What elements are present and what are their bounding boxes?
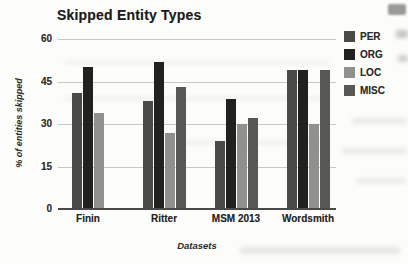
- scan-artifact: [388, 4, 406, 15]
- bar-per-msm-2013: [215, 141, 225, 209]
- bar-misc-wordsmith: [320, 70, 330, 209]
- bar-group-wordsmith: [287, 70, 330, 209]
- legend: PERORGLOCMISC: [344, 31, 385, 96]
- scan-artifact: [352, 118, 406, 124]
- legend-swatch-per: [344, 31, 355, 42]
- legend-label-org: ORG: [360, 49, 383, 60]
- legend-swatch-misc: [344, 85, 355, 96]
- bar-per-ritter: [143, 101, 153, 209]
- scan-artifact: [398, 55, 408, 62]
- scan-artifact: [356, 178, 406, 184]
- y-tick-label-45: 45: [12, 76, 52, 88]
- bar-chart: Skipped Entity Types % of entities skipp…: [0, 0, 408, 264]
- bar-org-msm-2013: [226, 99, 236, 210]
- bar-loc-finin: [94, 113, 104, 209]
- legend-item-loc: LOC: [344, 67, 385, 78]
- legend-label-misc: MISC: [360, 85, 385, 96]
- scan-artifact: [342, 148, 406, 154]
- gridline-60: [58, 39, 336, 40]
- x-tick-label-wordsmith: Wordsmith: [263, 213, 353, 224]
- legend-label-loc: LOC: [360, 67, 381, 78]
- bar-per-finin: [72, 93, 82, 209]
- bar-org-wordsmith: [298, 70, 308, 209]
- bar-misc-ritter: [176, 87, 186, 209]
- legend-item-org: ORG: [344, 49, 385, 60]
- bar-group-ritter: [143, 62, 186, 209]
- legend-swatch-loc: [344, 67, 355, 78]
- x-axis-line: [58, 208, 336, 210]
- x-axis-title: Datasets: [58, 240, 336, 251]
- bar-org-ritter: [154, 62, 164, 209]
- y-tick-label-60: 60: [12, 33, 52, 45]
- bar-per-wordsmith: [287, 70, 297, 209]
- plot-area: [58, 39, 336, 209]
- legend-item-per: PER: [344, 31, 385, 42]
- bar-org-finin: [83, 67, 93, 209]
- scan-artifact: [396, 30, 408, 38]
- legend-item-misc: MISC: [344, 85, 385, 96]
- bar-loc-wordsmith: [309, 124, 319, 209]
- bar-group-finin: [72, 67, 104, 209]
- bar-group-msm-2013: [215, 99, 258, 210]
- legend-swatch-org: [344, 49, 355, 60]
- bar-loc-msm-2013: [237, 124, 247, 209]
- y-tick-label-15: 15: [12, 161, 52, 173]
- chart-title: Skipped Entity Types: [57, 7, 202, 23]
- bar-misc-msm-2013: [248, 118, 258, 209]
- y-tick-label-30: 30: [12, 118, 52, 130]
- bar-loc-ritter: [165, 133, 175, 210]
- legend-label-per: PER: [360, 31, 381, 42]
